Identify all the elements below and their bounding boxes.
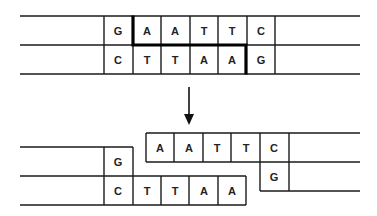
base: A <box>171 25 179 37</box>
left-fragment: G C T T A A <box>20 147 246 205</box>
base: T <box>144 54 151 66</box>
base: T <box>214 142 221 154</box>
base: T <box>172 54 179 66</box>
base: A <box>156 142 164 154</box>
intact-dna-duplex: G A A T T C C T T A A G <box>20 16 360 74</box>
dna-cleavage-diagram: G A A T T C C T T A A G G C T <box>0 0 377 216</box>
base: A <box>143 25 151 37</box>
base: A <box>200 54 208 66</box>
base: C <box>114 54 122 66</box>
right-fragment: A A T T C G <box>146 133 360 191</box>
base: A <box>200 185 208 197</box>
base: C <box>257 25 265 37</box>
base: T <box>243 142 250 154</box>
base: T <box>229 25 236 37</box>
base: T <box>201 25 208 37</box>
base: G <box>114 25 123 37</box>
base: C <box>114 185 122 197</box>
base: A <box>228 185 236 197</box>
down-arrow-icon <box>184 87 194 125</box>
base: G <box>270 171 279 183</box>
base: A <box>185 142 193 154</box>
base: T <box>172 185 179 197</box>
base: G <box>257 54 266 66</box>
base: C <box>270 142 278 154</box>
base: T <box>144 185 151 197</box>
base: A <box>228 54 236 66</box>
base: G <box>114 156 123 168</box>
